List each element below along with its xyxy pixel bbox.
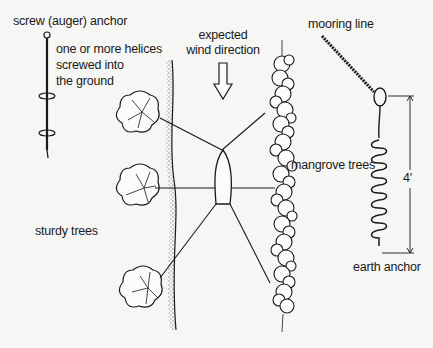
screw-anchor-icon [39,32,55,158]
wind-label-line1: expected [188,28,258,43]
sturdy-tree-icon [116,91,159,132]
screw-anchor-label: screw (auger) anchor [13,14,127,29]
dimension-label: 4′ [403,171,412,186]
earth-anchor-label: earth anchor [353,260,421,275]
sturdy-tree-icon [116,164,159,205]
sturdy-trees-label: sturdy trees [35,224,98,239]
mangrove-trees-label: mangrove trees [291,158,375,173]
helices-label-line3: the ground [56,74,114,89]
mooring-line-label: mooring line [308,17,374,32]
mangrove-trees-icon [270,40,297,332]
wind-direction-arrow-icon [214,63,232,99]
helices-label-line1: one or more helices [56,42,162,57]
helices-label-line2: screwed into [56,58,124,73]
boat-icon [215,150,232,204]
mooring-diagram: screw (auger) anchor one or more helices… [0,0,433,348]
shoreline-left [166,60,176,330]
sturdy-tree-icon [119,266,162,307]
wind-label-line2: wind direction [183,43,263,58]
earth-anchor-icon [322,36,387,246]
